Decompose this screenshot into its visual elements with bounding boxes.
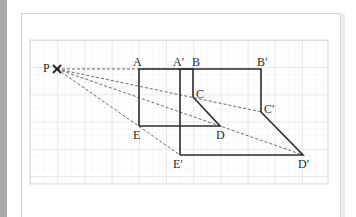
label-e: E	[133, 128, 140, 142]
label-b-prime: B′	[257, 55, 268, 69]
enlargement-diagram: P A A′ B B′ C C′ D D′ E E′	[0, 0, 356, 217]
label-d-prime: D′	[298, 157, 310, 171]
label-e-prime: E′	[173, 157, 183, 171]
label-b: B	[192, 55, 200, 69]
label-c-prime: C′	[264, 102, 275, 116]
label-p: P	[43, 61, 50, 75]
label-c: C	[196, 87, 204, 101]
label-a-prime: A′	[173, 55, 185, 69]
label-d: D	[216, 128, 225, 142]
label-a: A	[133, 55, 142, 69]
